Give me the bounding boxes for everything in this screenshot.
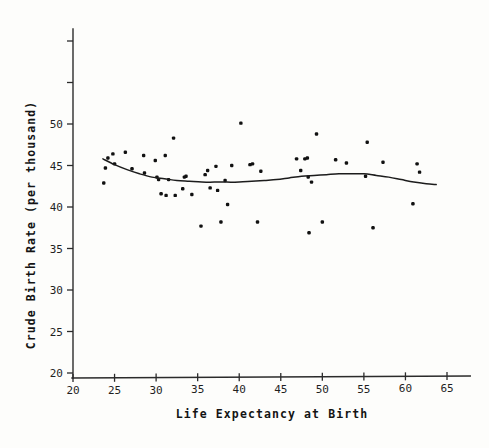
- data-point: [208, 186, 211, 189]
- data-point: [102, 181, 105, 184]
- x-tick-label-55: 55: [357, 383, 370, 396]
- data-point: [203, 173, 206, 176]
- data-point: [184, 175, 187, 178]
- data-point: [345, 161, 348, 164]
- x-tick-label-65: 65: [440, 382, 453, 395]
- y-tick-label-35: 35: [50, 243, 63, 256]
- trend-curve: [103, 159, 436, 185]
- data-point: [230, 164, 233, 167]
- data-point: [181, 187, 184, 190]
- x-tick-label-30: 30: [149, 384, 162, 397]
- data-point: [199, 224, 202, 227]
- data-point: [239, 121, 242, 124]
- data-point: [164, 194, 167, 197]
- x-axis-line: [72, 376, 470, 378]
- y-axis-title: Crude Birth Rate (per thousand): [24, 101, 38, 350]
- x-tick-label-20: 20: [66, 384, 79, 397]
- data-point: [381, 160, 384, 163]
- data-point: [299, 169, 302, 172]
- data-point: [214, 165, 217, 168]
- data-point: [321, 220, 324, 223]
- y-tick-label-50: 50: [50, 118, 63, 131]
- data-point: [111, 152, 114, 155]
- data-point: [142, 154, 145, 157]
- data-point: [366, 141, 369, 144]
- data-point: [364, 175, 367, 178]
- data-point: [164, 154, 167, 157]
- x-tick-label-35: 35: [191, 383, 204, 396]
- data-point: [315, 132, 318, 135]
- scatter-plot-figure: 20253035404550 20253035404550556065 Life…: [0, 0, 489, 448]
- data-point: [334, 158, 337, 161]
- y-axis-ticks: 20253035404550: [50, 41, 73, 380]
- x-tick-label-50: 50: [316, 383, 329, 396]
- data-point: [251, 162, 254, 165]
- y-tick-label-20: 20: [50, 367, 63, 380]
- x-axis-title: Life Expectancy at Birth: [176, 407, 369, 421]
- data-point: [226, 203, 229, 206]
- y-tick-label-25: 25: [50, 326, 63, 339]
- data-point: [130, 167, 133, 170]
- data-point: [411, 202, 414, 205]
- data-point: [219, 220, 222, 223]
- data-point: [295, 157, 298, 160]
- axes-group: [72, 29, 470, 378]
- data-point: [172, 136, 175, 139]
- chart-canvas: 20253035404550 20253035404550556065 Life…: [0, 0, 489, 448]
- data-point: [307, 231, 310, 234]
- data-point: [154, 159, 157, 162]
- data-point: [306, 156, 309, 159]
- data-point: [371, 226, 374, 229]
- data-point: [159, 192, 162, 195]
- x-tick-label-60: 60: [399, 382, 412, 395]
- data-point: [206, 169, 209, 172]
- data-point: [104, 166, 107, 169]
- y-tick-label-45: 45: [50, 160, 63, 173]
- x-tick-label-40: 40: [233, 383, 246, 396]
- data-point: [190, 193, 193, 196]
- data-point: [415, 162, 418, 165]
- data-point: [216, 189, 219, 192]
- data-points-layer: [102, 121, 421, 234]
- data-point: [310, 180, 313, 183]
- y-tick-label-30: 30: [50, 284, 63, 297]
- y-tick-label-40: 40: [50, 201, 63, 214]
- data-point: [259, 170, 262, 173]
- x-tick-label-45: 45: [274, 383, 287, 396]
- data-point: [418, 170, 421, 173]
- data-point: [124, 151, 127, 154]
- data-point: [174, 194, 177, 197]
- data-point: [256, 220, 259, 223]
- data-point: [106, 156, 109, 159]
- x-tick-label-25: 25: [108, 384, 121, 397]
